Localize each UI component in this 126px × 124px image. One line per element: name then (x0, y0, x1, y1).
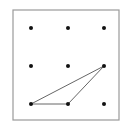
triangle-shape (31, 66, 104, 104)
grid-dot-r3c3 (102, 102, 106, 106)
grid-dot-r1c2 (66, 26, 70, 30)
dot-grid-diagram (0, 0, 126, 124)
grid-dot-r3c2 (66, 102, 70, 106)
grid-dot-r1c1 (29, 26, 33, 30)
grid-dot-r2c2 (66, 64, 70, 68)
dot-grid (29, 26, 106, 106)
grid-dot-r2c3 (102, 64, 106, 68)
grid-dot-r2c1 (29, 64, 33, 68)
grid-dot-r3c1 (29, 102, 33, 106)
grid-dot-r1c3 (102, 26, 106, 30)
